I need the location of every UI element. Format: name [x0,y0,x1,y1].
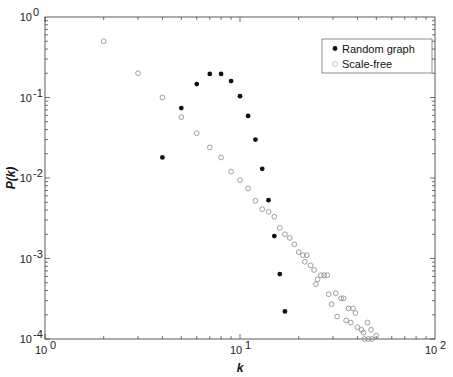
data-point-random-graph [194,82,199,87]
data-point-random-graph [277,272,282,277]
y-tick-exponent: 0 [33,6,39,18]
data-point-random-graph [260,166,265,171]
data-point-random-graph [179,106,184,111]
data-point-random-graph [246,114,251,119]
y-tick-exponent: -2 [33,167,43,179]
y-tick-label: 10 [20,253,32,265]
x-tick-exponent: 1 [245,339,251,351]
y-tick-exponent: -1 [33,87,43,99]
data-point-random-graph [266,198,271,203]
x-tick-exponent: 0 [50,339,56,351]
x-tick-exponent: 2 [440,339,446,351]
legend-label-scale-free: Scale-free [342,58,392,70]
data-point-random-graph [160,155,165,160]
data-point-random-graph [219,72,224,77]
y-tick-label: 10 [20,92,32,104]
data-point-random-graph [229,79,234,84]
data-point-random-graph [207,72,212,77]
y-tick-exponent: -4 [33,328,43,340]
y-tick-label: 10 [20,11,32,23]
y-tick-label: 10 [20,172,32,184]
data-point-random-graph [253,137,258,142]
y-tick-label: 10 [20,333,32,345]
data-point-random-graph [283,309,288,314]
chart: 100101102 10010-110-210-310-4 k P(k) Ran… [0,0,453,377]
legend: Random graph Scale-free [322,39,432,73]
filled-circle-marker-icon [333,46,338,51]
x-tick-label: 10 [230,344,242,356]
data-point-random-graph [272,234,277,239]
y-tick-exponent: -3 [33,248,43,260]
data-point-random-graph [238,94,243,99]
y-axis-label: P(k) [4,167,18,190]
x-tick-label: 10 [425,344,437,356]
legend-label-random-graph: Random graph [342,43,415,55]
x-tick-label: 10 [35,344,47,356]
